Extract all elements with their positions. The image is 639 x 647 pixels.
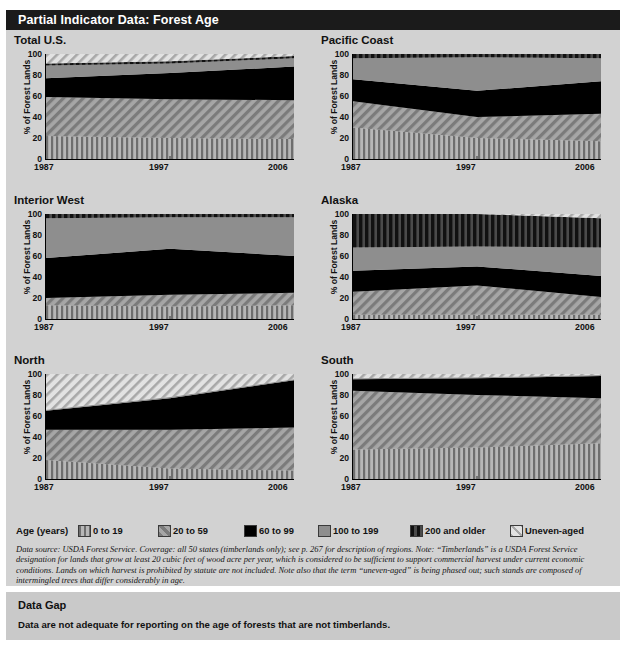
legend-swatch-icon <box>510 525 523 537</box>
x-tick-label: 1997 <box>149 162 169 172</box>
stacked-area-plot <box>352 374 601 480</box>
x-tick-label: 1997 <box>149 322 169 332</box>
y-tick-label: 80 <box>32 231 42 239</box>
source-note: Data source: USDA Forest Service. Covera… <box>16 544 612 586</box>
figure-body: Total U.S.% of Forest Lands0204060801001… <box>6 30 620 586</box>
x-tick-label: 2006 <box>575 322 595 332</box>
x-tick-label: 2006 <box>268 482 288 492</box>
x-axis-ticks: 198719972006 <box>6 322 313 336</box>
x-tick-label: 1997 <box>456 162 476 172</box>
plot-area: % of Forest Lands02040608010019871997200… <box>313 212 620 352</box>
y-axis-ticks: 020406080100 <box>18 52 42 162</box>
legend-label: 20 to 59 <box>173 525 208 536</box>
x-tick-label: 1987 <box>34 322 54 332</box>
legend-label: Uneven-aged <box>525 525 584 536</box>
panel-title: Interior West <box>14 194 84 206</box>
stacked-area-plot <box>352 214 601 320</box>
x-tick-label: 1997 <box>149 482 169 492</box>
y-tick-label: 100 <box>28 50 42 58</box>
y-tick-label: 20 <box>339 134 349 142</box>
x-tick-label: 2006 <box>575 162 595 172</box>
x-axis-ticks: 198719972006 <box>313 322 620 336</box>
x-axis-ticks: 198719972006 <box>313 162 620 176</box>
legend-swatch-icon <box>318 525 331 537</box>
y-tick-label: 60 <box>339 412 349 420</box>
chart-panel-north: North% of Forest Lands020406080100198719… <box>6 354 313 514</box>
stacked-area-plot <box>45 374 294 480</box>
plot-area: % of Forest Lands02040608010019871997200… <box>313 52 620 192</box>
legend-label: 60 to 99 <box>259 525 294 536</box>
x-axis-ticks: 198719972006 <box>313 482 620 496</box>
x-axis-ticks: 198719972006 <box>6 162 313 176</box>
y-tick-label: 20 <box>339 454 349 462</box>
plot-area: % of Forest Lands02040608010019871997200… <box>6 52 313 192</box>
y-tick-label: 60 <box>32 92 42 100</box>
chart-panel-south: South% of Forest Lands020406080100198719… <box>313 354 620 514</box>
legend-swatch-icon <box>410 525 423 537</box>
y-tick-label: 20 <box>32 134 42 142</box>
legend-title: Age (years) <box>16 525 68 536</box>
figure-title-bar: Partial Indicator Data: Forest Age <box>6 10 620 30</box>
y-tick-label: 40 <box>339 113 349 121</box>
y-tick-label: 60 <box>339 252 349 260</box>
legend-swatch-icon <box>158 525 171 537</box>
data-gap-panel: Data Gap Data are not adequate for repor… <box>6 592 620 640</box>
x-tick-label: 1987 <box>34 162 54 172</box>
y-tick-label: 40 <box>32 113 42 121</box>
panel-title: Pacific Coast <box>321 34 393 46</box>
y-tick-label: 80 <box>339 71 349 79</box>
x-tick-label: 1987 <box>341 162 361 172</box>
panel-title: South <box>321 354 354 366</box>
y-axis-ticks: 020406080100 <box>325 212 349 322</box>
x-tick-label: 1997 <box>456 322 476 332</box>
x-tick-label: 1987 <box>341 322 361 332</box>
y-tick-label: 60 <box>32 412 42 420</box>
x-tick-label: 2006 <box>268 322 288 332</box>
legend-swatch-icon <box>78 525 91 537</box>
forest-age-figure: Partial Indicator Data: Forest Age Total… <box>0 0 639 647</box>
legend-label: 200 and older <box>425 525 485 536</box>
x-tick-label: 1987 <box>34 482 54 492</box>
y-tick-label: 60 <box>339 92 349 100</box>
y-axis-ticks: 020406080100 <box>18 372 42 482</box>
x-tick-label: 2006 <box>575 482 595 492</box>
y-tick-label: 80 <box>339 231 349 239</box>
y-tick-label: 80 <box>32 391 42 399</box>
legend-label: 100 to 199 <box>333 525 378 536</box>
page-title: Partial Indicator Data: Forest Age <box>18 13 219 27</box>
stacked-area-plot <box>352 54 601 160</box>
legend-swatch-icon <box>244 525 257 537</box>
y-tick-label: 40 <box>339 273 349 281</box>
y-tick-label: 80 <box>339 391 349 399</box>
stacked-area-plot <box>45 214 294 320</box>
y-tick-label: 100 <box>335 370 349 378</box>
y-tick-label: 100 <box>335 210 349 218</box>
legend-label: 0 to 19 <box>93 525 123 536</box>
y-tick-label: 60 <box>32 252 42 260</box>
y-tick-label: 80 <box>32 71 42 79</box>
chart-panel-total-u-s: Total U.S.% of Forest Lands0204060801001… <box>6 34 313 194</box>
data-gap-heading: Data Gap <box>18 599 66 611</box>
panel-title: Total U.S. <box>14 34 66 46</box>
plot-area: % of Forest Lands02040608010019871997200… <box>6 372 313 512</box>
y-tick-label: 40 <box>32 433 42 441</box>
data-gap-body: Data are not adequate for reporting on t… <box>18 619 390 630</box>
y-tick-label: 40 <box>32 273 42 281</box>
y-axis-ticks: 020406080100 <box>18 212 42 322</box>
stacked-area-plot <box>45 54 294 160</box>
y-tick-label: 100 <box>335 50 349 58</box>
y-tick-label: 40 <box>339 433 349 441</box>
x-tick-label: 1987 <box>341 482 361 492</box>
x-tick-label: 1997 <box>456 482 476 492</box>
chart-panel-interior-west: Interior West% of Forest Lands0204060801… <box>6 194 313 354</box>
panel-title: Alaska <box>321 194 358 206</box>
plot-area: % of Forest Lands02040608010019871997200… <box>6 212 313 352</box>
y-tick-label: 100 <box>28 210 42 218</box>
y-tick-label: 20 <box>339 294 349 302</box>
y-tick-label: 100 <box>28 370 42 378</box>
chart-legend: Age (years) 0 to 1920 to 5960 to 99100 t… <box>6 522 620 542</box>
y-tick-label: 20 <box>32 294 42 302</box>
panel-title: North <box>14 354 45 366</box>
plot-area: % of Forest Lands02040608010019871997200… <box>313 372 620 512</box>
chart-grid: Total U.S.% of Forest Lands0204060801001… <box>6 30 620 522</box>
